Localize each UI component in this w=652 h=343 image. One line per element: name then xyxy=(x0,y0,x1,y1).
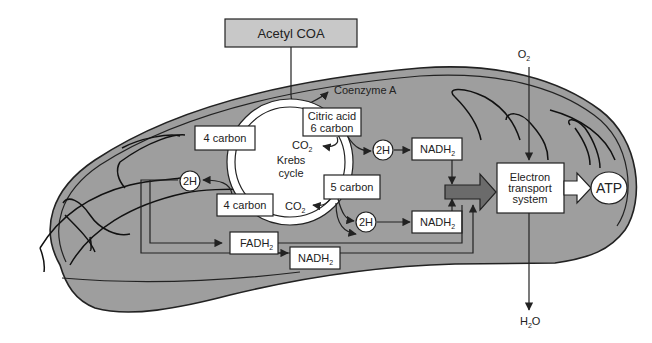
krebs-label-line1: Krebs xyxy=(277,154,306,166)
atp-node: ATP xyxy=(591,172,627,204)
krebs-label-line2: cycle xyxy=(278,167,303,179)
citric-acid-label: Citric acid xyxy=(308,110,356,122)
four-carbon-bottom-label: 4 carbon xyxy=(224,199,267,211)
two-h-left-node: 2H xyxy=(180,171,200,191)
electron-transport-system-node: Electron transport system xyxy=(497,163,564,213)
nadh-middle-label: NADH2 xyxy=(420,216,455,230)
nadh-middle-node: NADH2 xyxy=(412,211,462,233)
h2o-label: H2O xyxy=(520,315,541,329)
coenzyme-a-label: Coenzyme A xyxy=(334,84,397,96)
acetyl-coa-node: Acetyl COA xyxy=(225,19,357,47)
nadh-top-node: NADH2 xyxy=(412,138,462,160)
four-carbon-top-label: 4 carbon xyxy=(204,132,247,144)
two-h-top-label: 2H xyxy=(376,144,390,156)
four-carbon-top-node: 4 carbon xyxy=(195,126,255,150)
nadh-bottom-node: NADH2 xyxy=(290,247,340,269)
nadh-bottom-label: NADH2 xyxy=(298,252,333,266)
four-carbon-bottom-node: 4 carbon xyxy=(217,194,273,216)
five-carbon-node: 5 carbon xyxy=(324,175,380,199)
five-carbon-label: 5 carbon xyxy=(331,181,374,193)
two-h-bottom-node: 2H xyxy=(356,212,376,232)
ets-label-line3: system xyxy=(513,193,548,205)
nadh-top-label: NADH2 xyxy=(420,143,455,157)
two-h-bottom-label: 2H xyxy=(359,216,373,228)
six-carbon-label: 6 carbon xyxy=(311,122,354,134)
mitochondrion-diagram: Acetyl COA Coenzyme A Krebs cycle Citric… xyxy=(0,0,652,343)
acetyl-coa-label: Acetyl COA xyxy=(257,26,325,41)
o2-label: O2 xyxy=(518,48,531,62)
fadh-node: FADH2 xyxy=(230,232,278,254)
citric-acid-node: Citric acid 6 carbon xyxy=(303,108,361,136)
two-h-left-label: 2H xyxy=(183,175,197,187)
fadh-label: FADH2 xyxy=(240,237,273,251)
atp-label: ATP xyxy=(596,180,622,196)
two-h-top-node: 2H xyxy=(373,140,393,160)
